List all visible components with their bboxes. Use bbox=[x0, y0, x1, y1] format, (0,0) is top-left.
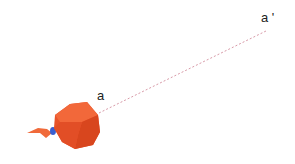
point-a-prime-label: a ' bbox=[261, 11, 274, 24]
dashed-trajectory-line bbox=[99, 31, 266, 113]
diagram-canvas bbox=[0, 0, 295, 164]
polyhedron-object bbox=[27, 102, 100, 149]
point-a-label: a bbox=[97, 89, 104, 102]
